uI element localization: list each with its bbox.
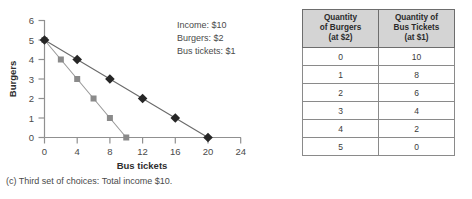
table-row: 2 6 — [303, 84, 455, 102]
cell-bus-tickets: 6 — [379, 84, 455, 102]
table-header-bus-tickets-line2: Bus Tickets — [381, 23, 452, 33]
cell-bus-tickets: 0 — [379, 138, 455, 156]
cell-burgers: 3 — [303, 102, 379, 120]
cell-bus-tickets: 2 — [379, 120, 455, 138]
x-axis-title: Bus tickets — [117, 160, 168, 171]
y-tick-label-0: 0 — [29, 132, 34, 143]
annotation-income: Income: $10 — [177, 20, 227, 30]
annotation-burgers-price: Burgers: $2 — [177, 33, 224, 43]
table-header-burgers-line2: of Burgers — [305, 23, 376, 33]
cell-burgers: 4 — [303, 120, 379, 138]
x-tick-label-8: 8 — [107, 146, 112, 157]
y-tick-label-2: 2 — [29, 93, 34, 104]
table-header-burgers: Quantity of Burgers (at $2) — [303, 10, 379, 48]
x-tick-label-4: 4 — [75, 146, 80, 157]
x-tick-label-16: 16 — [170, 146, 181, 157]
y-tick-label-1: 1 — [29, 113, 34, 124]
table-header-bus-tickets-line1: Quantity of — [381, 13, 452, 23]
table-header-row: Quantity of Burgers (at $2) Quantity of … — [303, 10, 455, 48]
chart-svg: 6 5 4 3 2 1 0 0 4 8 12 16 20 24 Bus tick… — [0, 0, 285, 175]
figure-panel-c: 6 5 4 3 2 1 0 0 4 8 12 16 20 24 Bus tick… — [0, 0, 472, 199]
budget-constraint-chart: 6 5 4 3 2 1 0 0 4 8 12 16 20 24 Bus tick… — [0, 0, 285, 199]
cell-burgers: 2 — [303, 84, 379, 102]
y-tick-label-4: 4 — [29, 54, 34, 65]
x-tick-label-0: 0 — [42, 146, 47, 157]
y-tick-label-6: 6 — [29, 15, 34, 26]
cell-burgers: 0 — [303, 48, 379, 66]
annotation-bus-ticket-price: Bus tickets: $1 — [177, 46, 236, 56]
quantity-table: Quantity of Burgers (at $2) Quantity of … — [302, 9, 455, 156]
cell-bus-tickets: 8 — [379, 66, 455, 84]
table-header-burgers-line3: (at $2) — [305, 33, 376, 43]
y-tick-label-5: 5 — [29, 35, 34, 46]
cell-bus-tickets: 4 — [379, 102, 455, 120]
table-row: 4 2 — [303, 120, 455, 138]
table-row: 5 0 — [303, 138, 455, 156]
y-axis-title: Burgers — [7, 61, 18, 97]
cell-bus-tickets: 10 — [379, 48, 455, 66]
x-tick-label-24: 24 — [235, 146, 246, 157]
table-row: 0 10 — [303, 48, 455, 66]
table-row: 1 8 — [303, 66, 455, 84]
table-row: 3 4 — [303, 102, 455, 120]
series-square-line — [45, 40, 127, 138]
table-header-burgers-line1: Quantity — [305, 13, 376, 23]
y-tick-label-3: 3 — [29, 74, 34, 85]
cell-burgers: 1 — [303, 66, 379, 84]
table-header-bus-tickets-line3: (at $1) — [381, 33, 452, 43]
x-tick-label-20: 20 — [203, 146, 214, 157]
table-header-bus-tickets: Quantity of Bus Tickets (at $1) — [379, 10, 455, 48]
cell-burgers: 5 — [303, 138, 379, 156]
x-tick-label-12: 12 — [137, 146, 148, 157]
figure-caption: (c) Third set of choices: Total income $… — [6, 176, 172, 186]
